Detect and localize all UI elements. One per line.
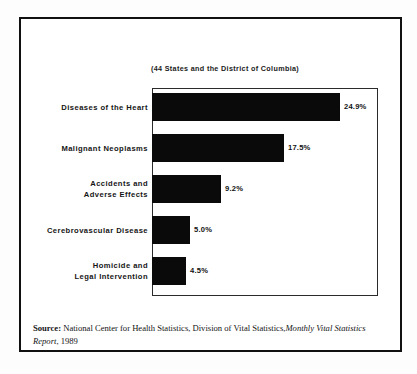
bar-value-label: 9.2% — [225, 175, 243, 203]
bar-value-label: 24.9% — [344, 93, 367, 121]
category-label: Homicide and Legal Intervention — [18, 260, 148, 282]
bar — [152, 175, 221, 203]
bar-value-label: 5.0% — [194, 216, 212, 244]
category-label: Cerebrovascular Disease — [18, 225, 148, 236]
chart-page: (44 States and the District of Columbia)… — [0, 0, 417, 374]
source-text-before: National Center for Health Statistics, D… — [63, 323, 285, 333]
category-label: Accidents and Adverse Effects — [18, 178, 148, 200]
chart-subtitle: (44 States and the District of Columbia) — [110, 64, 340, 73]
category-label: Malignant Neoplasms — [18, 143, 148, 154]
bar-value-label: 4.5% — [190, 257, 208, 285]
source-label: Source: — [33, 323, 61, 333]
bar — [152, 134, 284, 162]
category-label: Diseases of the Heart — [18, 102, 148, 113]
bar-value-label: 17.5% — [288, 134, 311, 162]
source-text-after: , 1989 — [56, 336, 77, 346]
bar — [152, 93, 340, 121]
bar — [152, 216, 190, 244]
source-note: Source: National Center for Health Stati… — [33, 322, 383, 347]
bar — [152, 257, 186, 285]
